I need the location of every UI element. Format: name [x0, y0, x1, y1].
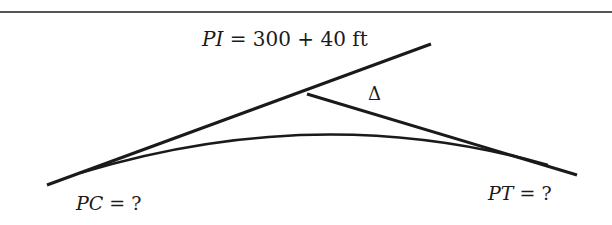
- delta-label: Δ: [368, 83, 381, 104]
- circular-curve: [80, 134, 548, 173]
- pc-label: PC = ?: [75, 192, 142, 214]
- pt-label: PT = ?: [487, 182, 552, 204]
- curve-diagram: PI = 300 + 40 ft Δ PC = ? PT = ?: [0, 0, 612, 225]
- pi-label: PI = 300 + 40 ft: [201, 27, 368, 51]
